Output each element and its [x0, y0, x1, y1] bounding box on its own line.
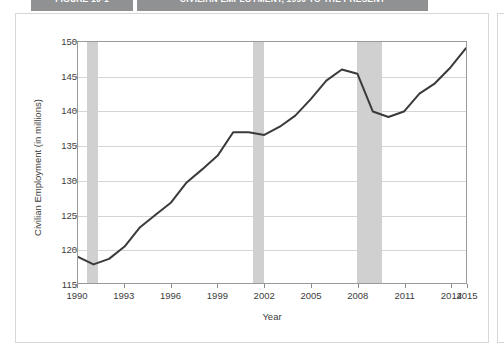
employment-line-series: [78, 42, 466, 283]
chart-figure: Civilian Employment (in millions) 115120…: [16, 14, 490, 344]
plot-area: [77, 41, 467, 284]
x-tick-label-2005: 2005: [291, 290, 331, 301]
x-tick-label-2015: 2015: [447, 290, 487, 301]
x-tick-label-1990: 1990: [57, 290, 97, 301]
x-tick-mark-2014: [451, 284, 452, 288]
x-tick-mark-2002: [264, 284, 265, 288]
x-tick-label-2002: 2002: [244, 290, 284, 301]
x-tick-label-2008: 2008: [338, 290, 378, 301]
x-tick-mark-2005: [311, 284, 312, 288]
tab-strip: FIGURE 10-1 CIVILIAN EMPLOYMENT, 1990 TO…: [0, 0, 504, 11]
x-tick-label-1996: 1996: [151, 290, 191, 301]
x-tick-label-2011: 2011: [385, 290, 425, 301]
x-tick-label-1999: 1999: [197, 290, 237, 301]
x-tick-mark-1993: [124, 284, 125, 288]
adjacent-panel: [497, 13, 504, 343]
y-axis: 115120125130135140145150: [41, 41, 77, 284]
x-tick-mark-2015: [467, 284, 468, 288]
screenshot-root: FIGURE 10-1 CIVILIAN EMPLOYMENT, 1990 TO…: [0, 0, 504, 350]
x-tick-label-1993: 1993: [104, 290, 144, 301]
x-tick-mark-2011: [405, 284, 406, 288]
employment-line: [78, 48, 466, 264]
x-axis-label: Year: [77, 311, 467, 322]
x-tick-mark-1990: [77, 284, 78, 288]
tab-figure-number[interactable]: FIGURE 10-1: [31, 0, 133, 11]
x-tick-mark-2008: [358, 284, 359, 288]
x-axis: 1990199319961999200220052008201120142015: [77, 284, 467, 308]
figure-card: Civilian Employment (in millions) 115120…: [15, 13, 489, 343]
x-tick-mark-1996: [171, 284, 172, 288]
tab-figure-title[interactable]: CIVILIAN EMPLOYMENT, 1990 TO THE PRESENT: [137, 0, 428, 11]
x-tick-mark-1999: [217, 284, 218, 288]
